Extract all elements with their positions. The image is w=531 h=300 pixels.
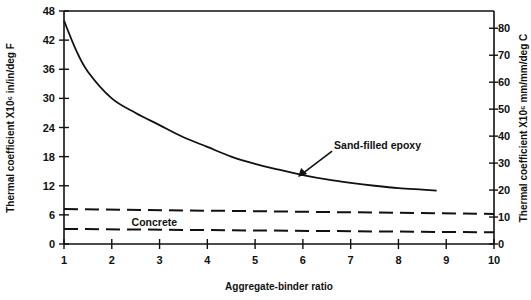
x-axis-title: Aggregate-binder ratio [225, 281, 333, 292]
x-tick-label: 6 [300, 254, 306, 266]
y2-tick-label: 0 [498, 238, 504, 250]
y2-tick-label: 30 [498, 157, 510, 169]
chart: 12345678910 0612182430364248 01020304050… [0, 0, 531, 300]
y-tick-label: 42 [43, 34, 55, 46]
x-tick-label: 8 [395, 254, 401, 266]
y2-tick-label: 50 [498, 103, 510, 115]
y-axis-left-ticks: 0612182430364248 [43, 5, 69, 250]
y-tick-label: 12 [43, 180, 55, 192]
x-tick-label: 1 [61, 254, 67, 266]
y-tick-label: 30 [43, 92, 55, 104]
y2-tick-label: 70 [498, 49, 510, 61]
y-tick-label: 36 [43, 63, 55, 75]
y-tick-label: 48 [43, 5, 55, 17]
y-axis-right-ticks: 01020304050607080 [489, 22, 510, 250]
concrete-bound-line [64, 229, 494, 232]
x-tick-label: 4 [204, 254, 211, 266]
x-tick-label: 3 [156, 254, 162, 266]
annotation-arrow-line [303, 151, 332, 173]
y-tick-label: 0 [49, 238, 55, 250]
y-tick-label: 24 [43, 122, 56, 134]
y2-tick-label: 80 [498, 22, 510, 34]
annotation-label-concrete: Concrete [132, 216, 178, 228]
x-tick-label: 5 [252, 254, 258, 266]
y-tick-label: 6 [49, 209, 55, 221]
y-axis-right-title: Thermal coefficient X10⁶ mm/mm/deg C [518, 34, 529, 223]
x-tick-label: 7 [348, 254, 354, 266]
y-axis-left-title: Thermal coefficient X10⁶ in/in/deg F [5, 43, 16, 213]
x-tick-label: 9 [443, 254, 449, 266]
y-tick-label: 18 [43, 151, 55, 163]
x-tick-label: 10 [488, 254, 500, 266]
y2-tick-label: 20 [498, 184, 510, 196]
annotations: Sand-filled epoxyConcrete [132, 139, 422, 228]
annotation-label-epoxy: Sand-filled epoxy [334, 139, 421, 151]
epoxy-curve [64, 21, 437, 191]
y2-tick-label: 40 [498, 130, 510, 142]
x-axis-ticks: 12345678910 [61, 239, 500, 266]
series-lines [64, 21, 494, 233]
concrete-bound-line [64, 209, 494, 214]
x-tick-label: 2 [109, 254, 115, 266]
y2-tick-label: 10 [498, 211, 510, 223]
y2-tick-label: 60 [498, 76, 510, 88]
